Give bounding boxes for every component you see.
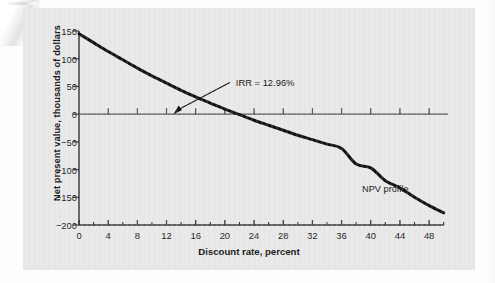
x-axis-tick-label: 36 [327,230,357,241]
x-axis-tick-label: 24 [239,230,269,241]
x-axis-tick-label: 32 [297,230,327,241]
x-axis-title: Discount rate, percent [23,246,475,257]
x-axis-tick-label: 44 [385,230,415,241]
axes-lines [73,31,448,225]
chart-figure-panel: Net present value, thousands of dollars … [23,8,475,270]
x-axis-tick-label: 48 [414,230,444,241]
x-axis-tick-label: 28 [268,230,298,241]
npv-profile-series-label: NPV profile [362,184,408,194]
page-edge-shadow [485,0,495,283]
chart-annotations: IRR = 12.96%NPV profile [174,77,409,194]
irr-annotation-text: IRR = 12.96% [236,77,295,88]
x-axis-tick-labels: 04812162024283236404448 [23,230,475,246]
irr-annotation-arrowhead [174,106,183,115]
x-axis-tick-label: 12 [152,230,182,241]
x-axis-tick-label: 16 [181,230,211,241]
irr-annotation-leader-line [178,83,230,110]
x-axis-tick-label: 4 [93,230,123,241]
x-axis-tick-label: 20 [210,230,240,241]
x-axis-tick-label: 8 [122,230,152,241]
x-axis-tick-label: 40 [356,230,386,241]
page-curl-highlight [6,2,36,5]
page-background: Net present value, thousands of dollars … [0,0,495,283]
x-axis-tick-label: 0 [64,230,94,241]
